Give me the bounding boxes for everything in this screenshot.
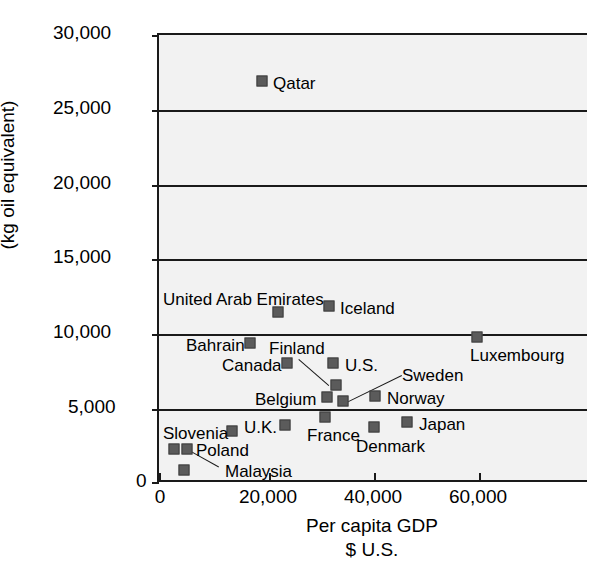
ytick-label-5000: 5,000 [68,396,116,418]
point-label-iceland: Iceland [340,300,395,317]
point-label-japan: Japan [419,416,465,433]
point-label-malaysia: Malaysia [225,463,292,480]
marker-malaysia[interactable] [179,465,190,476]
point-label-us: U.S. [345,357,378,374]
marker-qatar[interactable] [257,76,268,87]
marker-bahrain[interactable] [245,338,256,349]
point-label-sweden: Sweden [402,367,463,384]
xtick-label-20000: 20,000 [239,486,297,508]
leader-line-finland [298,359,329,386]
point-label-united-arab-emirates: United Arab Emirates [163,291,324,308]
point-label-canada: Canada [222,357,282,374]
marker-us[interactable] [328,358,339,369]
gridline-15000 [159,259,587,261]
marker-poland[interactable] [182,444,193,455]
xtick-label-40000: 40,000 [344,486,402,508]
y-axis-title: Per capita energy consumption (kg oil eq… [0,5,19,345]
ytick-mark-5000 [152,409,159,411]
marker-belgium[interactable] [322,392,333,403]
point-label-norway: Norway [387,390,445,407]
ytick-label-20000: 20,000 [53,172,111,194]
point-label-denmark: Denmark [356,438,425,455]
ytick-label-15000: 15,000 [53,246,111,268]
ytick-mark-10000 [152,334,159,336]
marker-france[interactable] [320,412,331,423]
ytick-mark-15000 [152,259,159,261]
gridline-25000 [159,110,587,112]
point-label-belgium: Belgium [255,391,316,408]
ytick-mark-20000 [152,185,159,187]
point-label-bahrain: Bahrain [186,337,245,354]
point-label-qatar: Qatar [273,75,316,92]
point-label-france: France [307,427,360,444]
point-label-uk: U.K. [244,419,277,436]
ytick-label-25000: 25,000 [53,97,111,119]
point-label-luxembourg: Luxembourg [470,347,565,364]
marker-canada[interactable] [282,358,293,369]
marker-denmark[interactable] [369,422,380,433]
point-label-poland: Poland [196,442,249,459]
marker-uk[interactable] [280,420,291,431]
marker-japan[interactable] [402,417,413,428]
xtick-label-0: 0 [155,486,166,508]
marker-luxembourg[interactable] [472,332,483,343]
x-axis-line [157,480,587,482]
marker-poland-secondary[interactable] [169,444,180,455]
point-label-finland: Finland [269,340,325,357]
point-label-slovenia: Slovenia [163,425,228,442]
marker-iceland[interactable] [324,301,335,312]
gridline-20000 [159,185,587,187]
ytick-mark-0 [152,482,159,484]
ytick-label-0: 0 [136,470,147,492]
marker-norway[interactable] [370,391,381,402]
ytick-mark-25000 [152,110,159,112]
ytick-label-10000: 10,000 [53,321,111,343]
x-axis-title: Per capita GDP $ U.S. [157,514,587,562]
xtick-label-60000: 60,000 [449,486,507,508]
marker-finland[interactable] [331,380,342,391]
plot-area: Qatar United Arab Emirates Iceland Luxem… [157,33,587,482]
ytick-mark-30000 [152,35,159,37]
ytick-label-30000: 30,000 [53,22,111,44]
gridline-5000 [159,409,587,411]
marker-sweden[interactable] [338,396,349,407]
scatter-chart-figure: 30,000 25,000 20,000 15,000 10,000 5,000… [0,0,613,586]
